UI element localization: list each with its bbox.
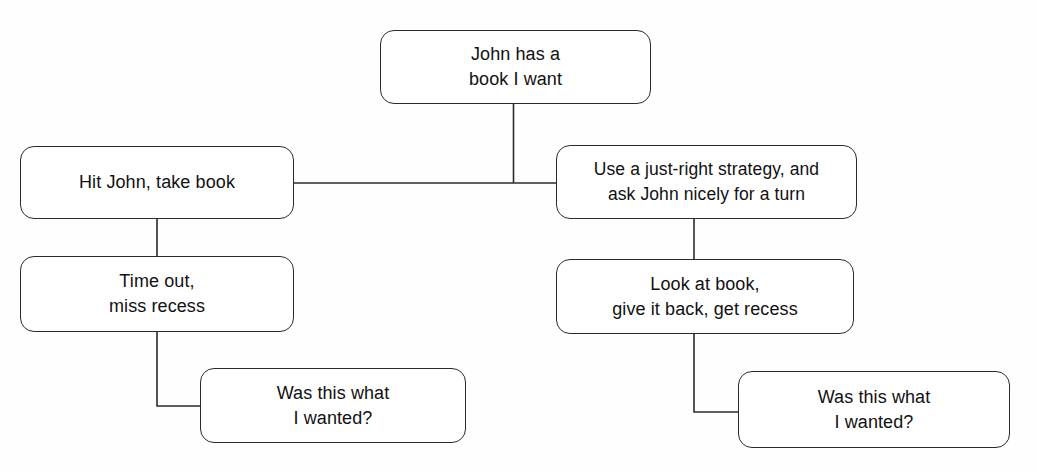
connector-timeout-to-reflect-left [157, 332, 200, 406]
node-label: Was this what I wanted? [818, 385, 931, 435]
node-label: John has a book I want [469, 42, 562, 92]
node-label: Time out, miss recess [109, 269, 205, 319]
connector-recess-to-reflect-right [694, 334, 738, 412]
node-hit-john-take-book[interactable]: Hit John, take book [20, 146, 294, 219]
node-john-has-book[interactable]: John has a book I want [380, 30, 651, 104]
node-label: Use a just-right strategy, and ask John … [594, 157, 819, 207]
node-label: Was this what I wanted? [277, 381, 390, 431]
node-was-this-what-i-wanted-right[interactable]: Was this what I wanted? [738, 371, 1010, 448]
node-time-out-miss-recess[interactable]: Time out, miss recess [20, 256, 294, 332]
node-just-right-strategy[interactable]: Use a just-right strategy, and ask John … [556, 145, 857, 219]
node-was-this-what-i-wanted-left[interactable]: Was this what I wanted? [200, 368, 466, 443]
node-label: Look at book, give it back, get recess [612, 272, 798, 322]
node-look-at-book-get-recess[interactable]: Look at book, give it back, get recess [556, 259, 854, 334]
flowchart-canvas: John has a book I want Hit John, take bo… [0, 0, 1037, 472]
node-label: Hit John, take book [79, 170, 235, 195]
